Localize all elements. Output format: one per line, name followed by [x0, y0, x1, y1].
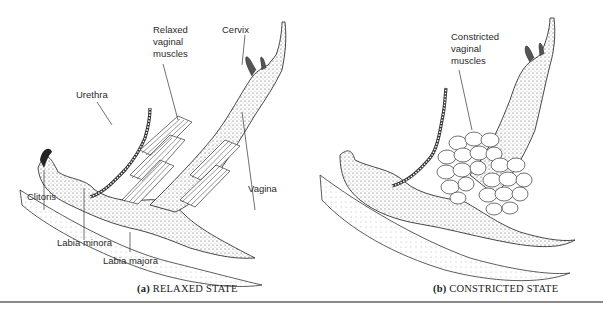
label-urethra: Urethra: [76, 89, 108, 100]
label-labia-majora: Labia majora: [103, 255, 158, 266]
label-relaxed-muscles-line3: muscles: [153, 48, 188, 59]
label-constricted-muscles-line3: muscles: [451, 55, 486, 66]
panel-b-drawing: [320, 18, 575, 281]
bottom-rule: [0, 301, 603, 303]
caption-constricted-state: (b) CONSTRICTED STATE: [433, 283, 558, 294]
anatomy-figure: Relaxed vaginal muscles Cervix Urethra C…: [0, 0, 603, 315]
label-relaxed-muscles-line1: Relaxed: [153, 24, 188, 35]
caption-b-letter: (b): [433, 283, 446, 294]
label-vagina: Vagina: [248, 183, 277, 194]
label-labia-minora: Labia minora: [57, 237, 112, 248]
label-cervix: Cervix: [222, 24, 249, 35]
label-clitoris: Clitoris: [27, 191, 56, 202]
caption-a-letter: (a): [137, 283, 150, 294]
diagram-artwork: [0, 0, 603, 315]
caption-b-text: CONSTRICTED STATE: [449, 283, 558, 294]
caption-a-text: RELAXED STATE: [153, 283, 238, 294]
label-relaxed-muscles-line2: vaginal: [153, 36, 183, 47]
caption-relaxed-state: (a) RELAXED STATE: [137, 283, 238, 294]
label-constricted-muscles-line1: Constricted: [451, 31, 499, 42]
label-constricted-muscles-line2: vaginal: [451, 43, 481, 54]
